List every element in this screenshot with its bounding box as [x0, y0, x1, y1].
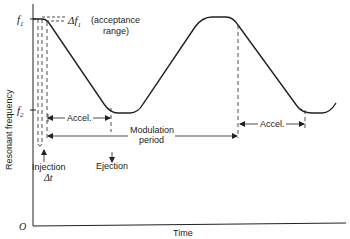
injection-label: Injection [32, 162, 66, 172]
modulation-label: Modulation [130, 125, 174, 135]
f1-label: f1 [17, 13, 24, 28]
accel-label-1: Accel. [67, 113, 92, 123]
accel-label-2: Accel. [260, 119, 285, 129]
acceptance-label: (acceptance [91, 15, 140, 25]
x-axis-label: Time [173, 228, 193, 238]
x-axis [33, 223, 346, 226]
origin-label: O [19, 221, 26, 232]
frequency-modulation-diagram: f1 f2 O Δf1 (acceptance range) Accel. Ac… [0, 0, 350, 239]
delta-f-label: Δf1 [67, 14, 81, 29]
f2-label: f2 [17, 104, 24, 119]
y-axis-label: Resonant frequency [4, 89, 14, 170]
modulation-label-2: period [139, 135, 164, 145]
ejection-label: Ejection [96, 161, 128, 171]
injection-dt-label: Δt [43, 172, 53, 183]
frequency-curve [33, 17, 336, 113]
acceptance-label-2: range) [103, 26, 129, 36]
injection-brace [38, 144, 42, 146]
